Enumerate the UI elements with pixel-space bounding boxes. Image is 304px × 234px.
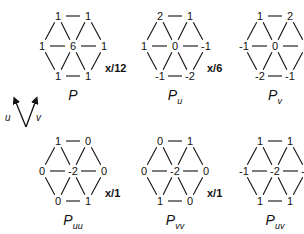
stencil-title: Pv <box>268 88 282 108</box>
weight-top-left: 1 <box>257 11 263 22</box>
weight-top-left: 1 <box>257 136 263 147</box>
u-axis-label: u <box>5 112 11 123</box>
stencil-title: P <box>68 88 77 108</box>
v-axis-label: v <box>36 112 41 123</box>
stencil-p: 1116111x/12P <box>28 2 128 112</box>
weight-center: 0 <box>172 41 178 52</box>
weight-mid-right: 0 <box>203 166 209 177</box>
weight-mid-right: -1 <box>301 166 304 177</box>
stencil-title-base: P <box>266 212 275 228</box>
weight-mid-left: -1 <box>239 41 249 52</box>
stencil-title-subscript: v <box>277 96 282 106</box>
weight-center: -2 <box>270 166 280 177</box>
scale-factor: x/12 <box>105 63 126 74</box>
scale-factor: x/1 <box>105 188 120 199</box>
stencil-title: Puv <box>266 213 285 233</box>
weight-mid-left: -1 <box>239 166 249 177</box>
stencil-title-base: P <box>168 87 177 103</box>
weight-mid-left: 1 <box>141 41 147 52</box>
weight-bottom-right: 1 <box>85 71 91 82</box>
weight-center: -2 <box>170 166 180 177</box>
weight-top-left: 1 <box>55 136 61 147</box>
weight-top-right: 0 <box>85 136 91 147</box>
weight-bottom-left: -2 <box>255 71 265 82</box>
stencil-title-base: P <box>166 212 175 228</box>
weight-mid-left: 0 <box>39 166 45 177</box>
stencil-title-subscript: u <box>177 96 182 106</box>
weight-bottom-left: 1 <box>55 71 61 82</box>
stencil-u: 2110-1-1-2x/6Pu <box>130 2 230 112</box>
stencil-title-subscript: uu <box>73 221 83 231</box>
scale-factor: x/6 <box>207 63 222 74</box>
weight-top-right: 1 <box>187 11 193 22</box>
stencil-title: Pvv <box>166 213 184 233</box>
weight-top-right: 2 <box>287 11 293 22</box>
weight-bottom-right: -2 <box>185 71 195 82</box>
weight-bottom-right: -1 <box>285 71 295 82</box>
weight-top-left: 2 <box>157 11 163 22</box>
uv-axis-diagram: u v <box>0 95 40 135</box>
weight-top-left: 1 <box>55 11 61 22</box>
weight-bottom-left: -1 <box>155 71 165 82</box>
stencil-title-base: P <box>268 87 277 103</box>
weight-mid-right: 0 <box>101 166 107 177</box>
weight-mid-right: 1 <box>101 41 107 52</box>
weight-center: 0 <box>272 41 278 52</box>
weight-mid-left: 1 <box>39 41 45 52</box>
weight-bottom-left: 1 <box>257 196 263 207</box>
stencil-uv: 11-1-2-111x/2Puv <box>230 127 304 234</box>
weight-bottom-right: 1 <box>287 196 293 207</box>
stencil-uu: 100-2001x/1Puu <box>28 127 128 234</box>
weight-top-right: 1 <box>85 11 91 22</box>
weight-top-left: 0 <box>157 136 163 147</box>
weight-top-right: 1 <box>187 136 193 147</box>
stencil-title-base: P <box>63 212 72 228</box>
weight-top-right: 1 <box>287 136 293 147</box>
stencil-title-subscript: vv <box>175 221 184 231</box>
weight-mid-right: 1 <box>303 41 304 52</box>
weight-bottom-right: 1 <box>85 196 91 207</box>
weight-bottom-left: 1 <box>157 196 163 207</box>
stencil-title-subscript: uv <box>275 221 285 231</box>
stencil-v: 12-101-2-1x/6Pv <box>230 2 304 112</box>
stencil-vv: 010-2010x/1Pvv <box>130 127 230 234</box>
weight-bottom-right: 0 <box>187 196 193 207</box>
scale-factor: x/1 <box>207 188 222 199</box>
stencil-title-base: P <box>68 87 77 103</box>
stencil-title: Pu <box>168 88 182 108</box>
weight-mid-right: -1 <box>201 41 211 52</box>
weight-mid-left: 0 <box>141 166 147 177</box>
stencil-title: Puu <box>63 213 82 233</box>
weight-center: -2 <box>68 166 78 177</box>
weight-bottom-left: 0 <box>55 196 61 207</box>
weight-center: 6 <box>70 41 76 52</box>
